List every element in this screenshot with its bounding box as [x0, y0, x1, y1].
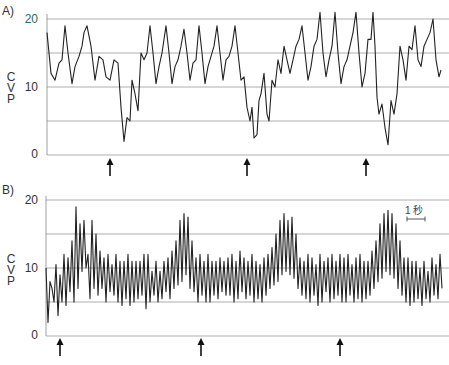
arrow-head-icon	[337, 338, 344, 345]
arrow-head-icon	[244, 158, 251, 165]
plot-area	[0, 0, 449, 365]
arrow-head-icon	[107, 158, 114, 165]
event-arrows	[57, 158, 370, 356]
panel-b-cvp-trace	[46, 207, 442, 323]
cvp-figure: A) B) 20 10 0 C V P 20 10 0 C V P 1 秒	[0, 0, 449, 365]
panel-a-cvp-trace	[47, 12, 441, 145]
arrow-head-icon	[363, 158, 370, 165]
arrow-head-icon	[198, 338, 205, 345]
arrow-head-icon	[57, 338, 64, 345]
scale-bar	[407, 217, 425, 222]
